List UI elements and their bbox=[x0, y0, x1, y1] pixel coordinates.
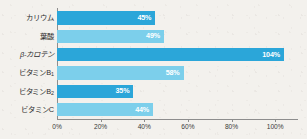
bar-row: 104% bbox=[57, 46, 297, 64]
bar-value-label: 45% bbox=[137, 14, 151, 21]
x-tick-mark bbox=[144, 119, 145, 122]
x-tick-label: 80% bbox=[225, 124, 238, 131]
bar[interactable]: 45% bbox=[57, 11, 155, 24]
category-label-text: ビタミンB bbox=[19, 87, 51, 96]
x-tick-mark bbox=[232, 119, 233, 122]
bar-row: 44% bbox=[57, 101, 297, 119]
bar[interactable]: 49% bbox=[57, 30, 164, 43]
bar[interactable]: 35% bbox=[57, 85, 133, 98]
bar-row: 35% bbox=[57, 82, 297, 100]
bar-row: 58% bbox=[57, 64, 297, 82]
category-label-text: カリウム bbox=[26, 13, 54, 22]
x-tick-label: 0% bbox=[52, 124, 62, 131]
x-tick-mark bbox=[275, 119, 276, 122]
x-tick-mark bbox=[188, 119, 189, 122]
bar-value-label: 49% bbox=[146, 33, 160, 40]
category-label: ビタミンB2 bbox=[19, 88, 54, 95]
bar-row: 45% bbox=[57, 9, 297, 27]
category-label-text: 葉酸 bbox=[40, 32, 54, 41]
bar-value-label: 104% bbox=[262, 51, 280, 58]
bar[interactable]: 58% bbox=[57, 66, 184, 79]
bar-row: 49% bbox=[57, 27, 297, 45]
bar-value-label: 35% bbox=[116, 88, 130, 95]
x-tick-label: 60% bbox=[181, 124, 194, 131]
bar[interactable]: 44% bbox=[57, 103, 153, 116]
category-label-text: ビタミンB bbox=[19, 68, 51, 77]
horizontal-bar-chart: 45%49%104%58%35%44% カリウム葉酸β-カロテンビタミンB1ビタ… bbox=[0, 0, 307, 139]
category-label-text: ビタミンC bbox=[21, 105, 54, 114]
bar-value-label: 44% bbox=[135, 106, 149, 113]
x-axis-line bbox=[57, 119, 298, 120]
category-label: 葉酸 bbox=[40, 33, 54, 40]
bar[interactable]: 104% bbox=[57, 48, 284, 61]
bar-value-label: 58% bbox=[166, 69, 180, 76]
x-tick-label: 20% bbox=[94, 124, 107, 131]
category-label: ビタミンB1 bbox=[19, 69, 54, 76]
category-label-text: β-カロテン bbox=[20, 50, 54, 59]
x-tick-label: 40% bbox=[138, 124, 151, 131]
category-label-subscript: 2 bbox=[51, 90, 54, 96]
category-label: カリウム bbox=[26, 14, 54, 21]
category-label: ビタミンC bbox=[21, 106, 54, 113]
x-tick-label: 100% bbox=[267, 124, 284, 131]
x-tick-mark bbox=[101, 119, 102, 122]
category-label-subscript: 1 bbox=[51, 71, 54, 77]
category-label: β-カロテン bbox=[20, 51, 54, 58]
